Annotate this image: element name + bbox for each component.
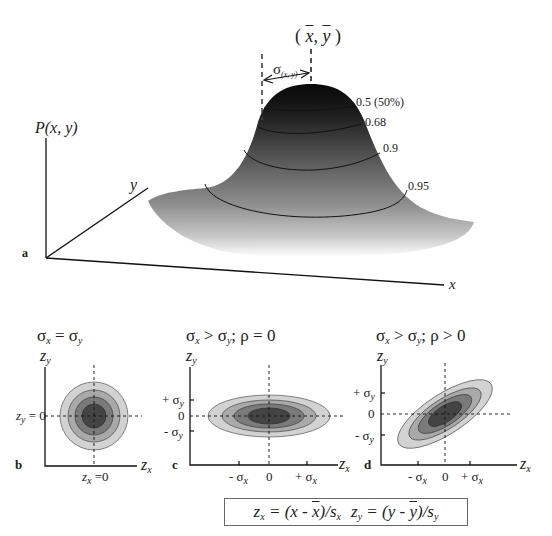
y-axis	[46, 188, 148, 258]
panel-c-ytick-plus: + σy	[162, 393, 184, 409]
panel-b-zx-axis-label: zx	[141, 457, 152, 475]
panel-d-ytick-zero: 0	[368, 407, 375, 420]
panel-label-a: a	[22, 247, 28, 259]
contour-label-0.68: 0.68	[365, 116, 386, 128]
sigma-label: σ(x, y)	[273, 62, 298, 79]
mean-label: ( x, y )	[295, 27, 341, 45]
panel-c-plot	[190, 365, 345, 466]
panel-c-ytick-zero: 0	[178, 409, 185, 422]
panel-d-zx-axis-label: zx	[520, 456, 531, 474]
panel-d-xtick-zero: 0	[442, 470, 449, 483]
panel-label-b: b	[15, 458, 22, 471]
panel-d-xtick-minus: - σx	[408, 470, 427, 486]
panel-d-zy-axis-label: zy	[377, 348, 388, 366]
formula-zx: zx = (x - x)/sx	[254, 502, 341, 522]
panel-c-xtick-plus: + σx	[295, 470, 317, 486]
panel-c-ytick-minus: - σy	[164, 425, 183, 441]
panel-d-xtick-plus: + σx	[461, 470, 483, 486]
mean-x: x	[306, 26, 314, 46]
panel-b-title: σx = σy	[37, 327, 82, 346]
panel-c-zy-axis-label: zy	[186, 348, 197, 366]
contour-label-0.5: 0.5 (50%)	[356, 96, 404, 108]
axis-y-label: y	[130, 177, 137, 193]
panel-d-plot	[381, 363, 517, 465]
panel-d-ytick-minus: - σy	[355, 429, 374, 445]
contour-label-0.95: 0.95	[408, 180, 429, 192]
panel-b-zy-zero-label: zy = 0	[16, 409, 46, 425]
panel-c-xtick-minus: - σx	[229, 470, 248, 486]
panel-c-zx-axis-label: zx	[339, 456, 350, 474]
axis-p-label: P(x, y)	[35, 120, 78, 136]
x-axis	[46, 258, 444, 285]
panel-d-ytick-plus: + σy	[353, 386, 375, 402]
axis-x-label: x	[449, 277, 456, 292]
panel-b-zx-zero-label: zx =0	[82, 470, 109, 486]
panel-b-plot	[45, 365, 142, 466]
panel-c-title: σx > σy; ρ = 0	[186, 327, 275, 346]
panel-label-d: d	[364, 458, 371, 471]
panel-b-zy-axis-label: zy	[40, 348, 51, 366]
panel-d-title: σx > σy; ρ > 0	[376, 327, 465, 346]
panel-label-c: c	[172, 458, 178, 471]
mean-y: y	[323, 26, 331, 46]
standardization-formula-box: zx = (x - x)/sx zy = (y - y)/sy	[224, 498, 468, 526]
panel-a-surface	[0, 0, 552, 536]
bivariate-normal-figure: ( x, y ) σ(x, y) 0.5 (50%) 0.68 0.9 0.95…	[0, 0, 552, 536]
panel-c-xtick-zero: 0	[266, 470, 273, 483]
contour-label-0.9: 0.9	[383, 142, 398, 154]
formula-zy: zy = (y - y)/sy	[351, 502, 438, 522]
